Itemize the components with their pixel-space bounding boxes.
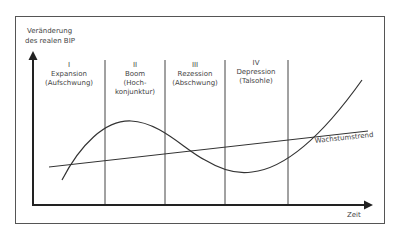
y-axis-label-line1: Veränderung [27, 27, 72, 35]
phase-labels: I Expansion (Aufschwung) II Boom (Hoch- … [45, 59, 276, 96]
phase-1-name: Expansion [51, 70, 87, 78]
trend-label: Wachstumstrend [314, 131, 374, 145]
phase-4-numeral: IV [253, 59, 260, 67]
phase-3-numeral: III [192, 61, 198, 69]
outer-frame [16, 17, 385, 224]
cycle-curve [62, 80, 362, 180]
y-axis-arrow-icon [29, 51, 38, 60]
phase-3-name: Rezession [178, 70, 213, 78]
phase-4-desc: (Talsohle) [239, 77, 273, 85]
phase-2-name: Boom [125, 70, 145, 78]
phase-2-desc: (Hoch- [123, 79, 147, 87]
phase-2-numeral: II [133, 61, 137, 69]
phase-1-desc: (Aufschwung) [45, 79, 93, 87]
x-axis-label: Zeit [347, 211, 361, 219]
phase-1-numeral: I [68, 61, 70, 69]
phase-3-desc: (Abschwung) [172, 79, 218, 87]
x-axis-arrow-icon [364, 201, 373, 210]
business-cycle-diagram: Veränderung des realen BIP I Expansion (… [0, 0, 401, 235]
phase-2-desc2: konjunktur) [115, 88, 155, 96]
phase-4-name: Depression [236, 68, 275, 76]
y-axis-label-line2: des realen BIP [25, 37, 75, 45]
